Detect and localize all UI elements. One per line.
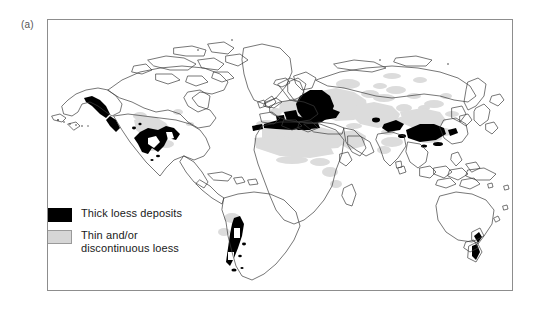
legend-label-thin-loess-line2: discontinuous loess bbox=[81, 242, 179, 255]
legend-item-thick-loess: Thick loess deposits bbox=[47, 207, 260, 222]
legend-label-thick-loess: Thick loess deposits bbox=[81, 207, 182, 220]
map-frame: Thick loess deposits Thin and/or discont… bbox=[47, 19, 513, 291]
legend-label-thin-loess-line1: Thin and/or bbox=[81, 229, 138, 241]
legend-label-thin-loess: Thin and/or discontinuous loess bbox=[81, 229, 179, 254]
map-legend: Thick loess deposits Thin and/or discont… bbox=[47, 207, 260, 261]
panel-label: (a) bbox=[21, 19, 34, 30]
legend-item-thin-loess: Thin and/or discontinuous loess bbox=[47, 229, 260, 254]
thin-loess-swatch-icon bbox=[47, 230, 72, 244]
thick-loess-swatch-icon bbox=[47, 208, 72, 222]
figure-panel: (a) bbox=[0, 0, 533, 311]
legend-label-thick-loess-line1: Thick loess deposits bbox=[81, 207, 182, 219]
